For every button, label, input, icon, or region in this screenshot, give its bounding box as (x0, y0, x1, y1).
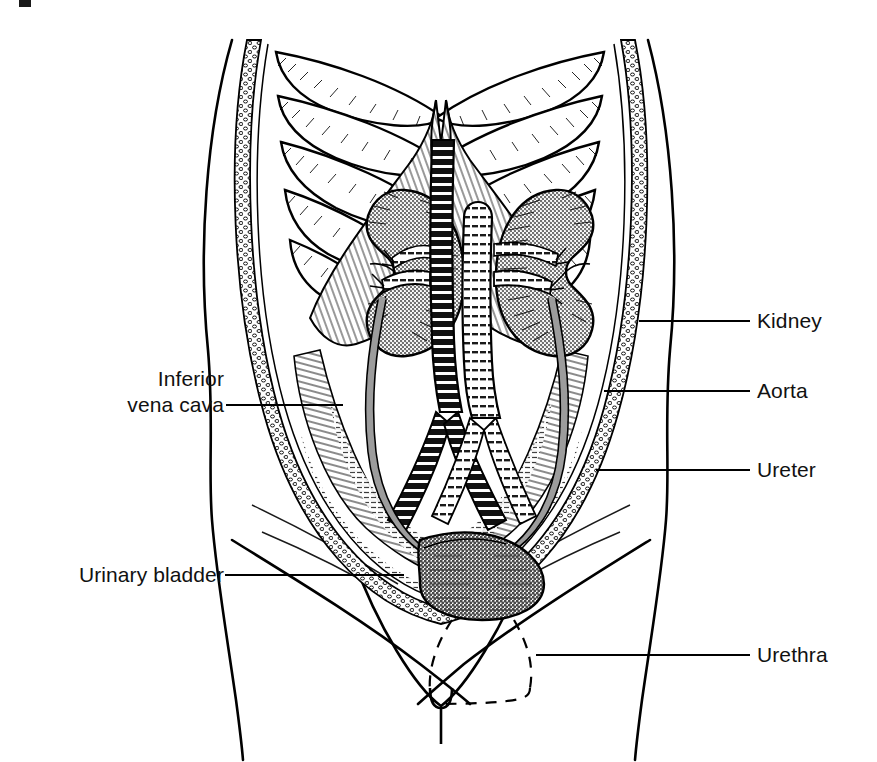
urethral-meatus (430, 688, 452, 744)
label-urinary-bladder: Urinary bladder (42, 562, 224, 588)
urethra-tube (430, 620, 532, 704)
label-inferior-vena-cava: Inferior vena cava (92, 366, 224, 418)
label-kidney: Kidney (757, 308, 822, 334)
anatomical-figure: Kidney Aorta Ureter Urethra Inferior ven… (0, 0, 877, 762)
label-aorta: Aorta (757, 378, 808, 404)
label-urethra: Urethra (757, 642, 828, 668)
scan-artifact-speck (19, 0, 31, 7)
label-ureter: Ureter (757, 457, 816, 483)
